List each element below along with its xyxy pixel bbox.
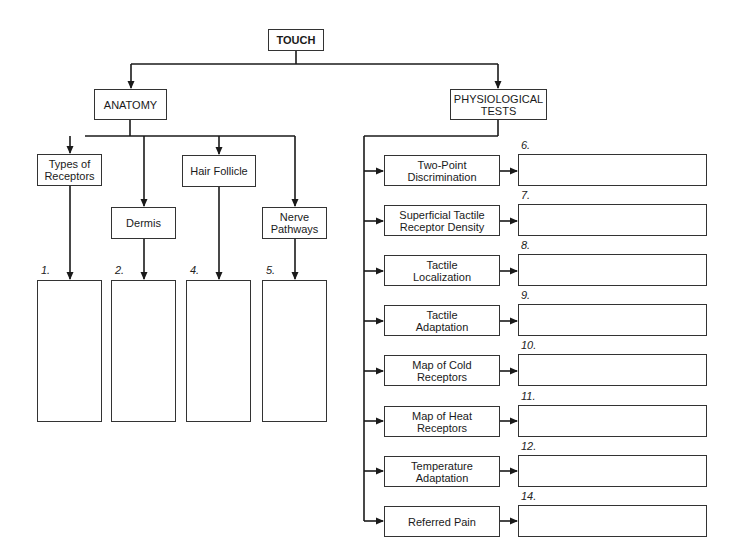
physiological-test-node-label-line1: Superficial Tactile bbox=[399, 209, 484, 221]
answer-number-label: 8. bbox=[521, 239, 530, 251]
anatomy-topic-node: Types ofReceptors bbox=[37, 154, 102, 186]
physiological-test-node-label-line1: Tactile bbox=[426, 259, 457, 271]
physiological-answer-box[interactable] bbox=[518, 455, 707, 487]
physiological-test-node-label-line2: Receptor Density bbox=[400, 221, 484, 233]
physiological-test-node-label-line1: Tactile bbox=[426, 309, 457, 321]
physiological-answer-box[interactable] bbox=[518, 354, 707, 386]
physiological-test-node-label-line2: Localization bbox=[413, 271, 471, 283]
physiological-answer-box[interactable] bbox=[518, 154, 707, 186]
answer-number-label: 12. bbox=[521, 440, 536, 452]
anatomy-topic-node: NervePathways bbox=[262, 207, 327, 239]
root-node-touch: TOUCH bbox=[268, 29, 324, 51]
physiological-test-node-label-line1: Map of Cold bbox=[412, 359, 471, 371]
anatomy-answer-box[interactable] bbox=[111, 280, 176, 422]
root-label: TOUCH bbox=[277, 34, 316, 46]
answer-number-label: 7. bbox=[521, 189, 530, 201]
anatomy-topic-node-label-line1: Hair Follicle bbox=[190, 165, 247, 177]
anatomy-topic-node: Hair Follicle bbox=[182, 155, 256, 187]
physiological-answer-box[interactable] bbox=[518, 304, 707, 336]
physiological-test-node: Two-PointDiscrimination bbox=[384, 155, 500, 186]
physiological-answer-box[interactable] bbox=[518, 405, 707, 437]
answer-number-label: 6. bbox=[521, 139, 530, 151]
answer-number-label: 1. bbox=[41, 264, 50, 276]
physiological-test-node-label-line2: Adaptation bbox=[416, 472, 469, 484]
answer-number-label: 4. bbox=[190, 264, 199, 276]
physiological-test-node: Superficial TactileReceptor Density bbox=[384, 205, 500, 236]
physiological-answer-box[interactable] bbox=[518, 505, 707, 537]
anatomy-topic-node-label-line1: Types of bbox=[49, 158, 91, 170]
anatomy-topic-node: Dermis bbox=[111, 207, 176, 239]
branch-node-anatomy: ANATOMY bbox=[94, 89, 167, 120]
answer-number-label: 11. bbox=[521, 390, 535, 402]
answer-number-label: 14. bbox=[521, 490, 536, 502]
physiological-test-node-label-line2: Adaptation bbox=[416, 321, 469, 333]
physiological-test-node: TactileAdaptation bbox=[384, 305, 500, 336]
physiological-test-node: Map of ColdReceptors bbox=[384, 355, 500, 386]
answer-number-label: 2. bbox=[115, 264, 124, 276]
anatomy-answer-box[interactable] bbox=[186, 280, 251, 422]
physiological-label-line2: TESTS bbox=[481, 105, 516, 117]
anatomy-answer-box[interactable] bbox=[37, 280, 102, 422]
physiological-test-node-label-line2: Discrimination bbox=[407, 171, 476, 183]
physiological-test-node-label-line2: Receptors bbox=[417, 371, 467, 383]
physiological-test-node-label-line1: Temperature bbox=[411, 460, 473, 472]
anatomy-answer-box[interactable] bbox=[262, 280, 327, 422]
answer-number-label: 9. bbox=[521, 289, 530, 301]
physiological-test-node-label-line2: Receptors bbox=[417, 422, 467, 434]
physiological-test-node-label-line1: Referred Pain bbox=[408, 516, 476, 528]
physiological-test-node-label-line1: Map of Heat bbox=[412, 410, 472, 422]
anatomy-topic-node-label-line2: Pathways bbox=[271, 223, 319, 235]
answer-number-label: 5. bbox=[266, 264, 275, 276]
physiological-test-node: Referred Pain bbox=[384, 506, 500, 537]
anatomy-topic-node-label-line2: Receptors bbox=[44, 170, 94, 182]
physiological-answer-box[interactable] bbox=[518, 254, 707, 286]
anatomy-label: ANATOMY bbox=[104, 99, 157, 111]
branch-node-physiological-tests: PHYSIOLOGICAL TESTS bbox=[450, 89, 547, 120]
physiological-label-line1: PHYSIOLOGICAL bbox=[454, 93, 543, 105]
physiological-test-node-label-line1: Two-Point bbox=[418, 159, 467, 171]
anatomy-topic-node-label-line1: Dermis bbox=[126, 217, 161, 229]
physiological-answer-box[interactable] bbox=[518, 204, 707, 236]
answer-number-label: 10. bbox=[521, 339, 536, 351]
physiological-test-node: Map of HeatReceptors bbox=[384, 406, 500, 437]
physiological-test-node: TactileLocalization bbox=[384, 255, 500, 286]
physiological-test-node: TemperatureAdaptation bbox=[384, 456, 500, 487]
anatomy-topic-node-label-line1: Nerve bbox=[280, 211, 309, 223]
